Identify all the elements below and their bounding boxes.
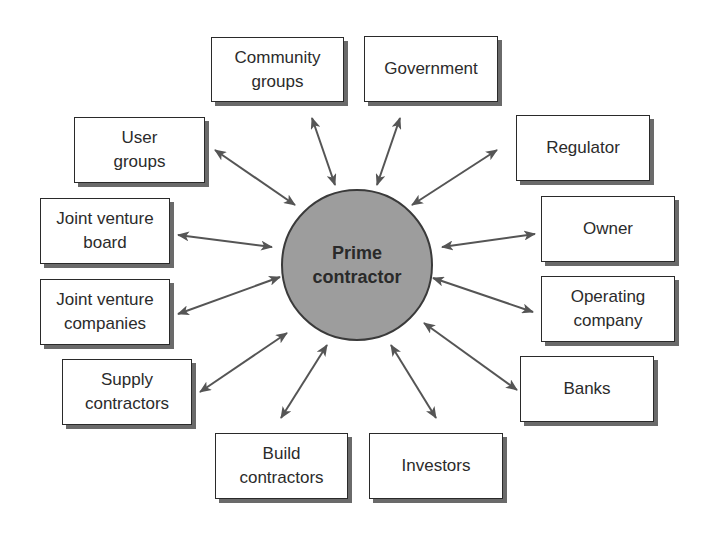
arrow-supply-contractors (200, 333, 287, 392)
node-label: contractors (239, 466, 323, 490)
node-owner: Owner (541, 196, 675, 262)
arrow-investors (391, 345, 436, 418)
node-build-contractors: Buildcontractors (215, 433, 348, 499)
arrow-operating-company (433, 278, 533, 312)
node-user-groups: Usergroups (74, 117, 205, 183)
node-label: Investors (402, 454, 471, 478)
node-label: Government (384, 57, 478, 81)
node-label: Community (235, 46, 321, 70)
node-label: User (114, 126, 166, 150)
arrow-jv-board (178, 235, 272, 247)
prime-contractor-hub: Prime contractor (281, 189, 433, 341)
node-label: companies (56, 312, 153, 336)
node-label: contractors (85, 392, 169, 416)
node-label: Owner (583, 217, 633, 241)
node-label: Supply (85, 368, 169, 392)
stakeholder-diagram: Prime contractor Communitygroups Governm… (0, 0, 711, 537)
arrow-build-contractors (281, 345, 327, 418)
arrow-banks (424, 323, 517, 390)
node-community-groups: Communitygroups (211, 37, 344, 102)
arrow-community-groups (312, 118, 335, 185)
arrow-regulator (412, 150, 497, 205)
node-banks: Banks (520, 356, 654, 422)
node-label: Regulator (546, 136, 620, 160)
node-label: Joint venture (56, 207, 153, 231)
node-operating-company: Operatingcompany (541, 276, 675, 342)
node-label: Joint venture (56, 288, 153, 312)
node-joint-venture-companies: Joint venturecompanies (40, 279, 170, 345)
arrow-jv-companies (178, 277, 280, 314)
arrow-user-groups (215, 150, 295, 205)
node-investors: Investors (369, 433, 503, 499)
node-supply-contractors: Supplycontractors (62, 359, 192, 425)
node-label: board (56, 231, 153, 255)
node-label: Operating (571, 285, 646, 309)
hub-label-line1: Prime (332, 241, 382, 265)
node-government: Government (364, 36, 498, 102)
node-label: Build (239, 442, 323, 466)
node-label: Banks (563, 377, 610, 401)
arrow-government (377, 118, 400, 185)
node-label: groups (114, 150, 166, 174)
node-label: company (571, 309, 646, 333)
node-joint-venture-board: Joint ventureboard (40, 198, 170, 264)
arrow-owner (442, 234, 535, 247)
node-regulator: Regulator (516, 115, 650, 181)
node-label: groups (235, 70, 321, 94)
hub-label-line2: contractor (312, 265, 401, 289)
